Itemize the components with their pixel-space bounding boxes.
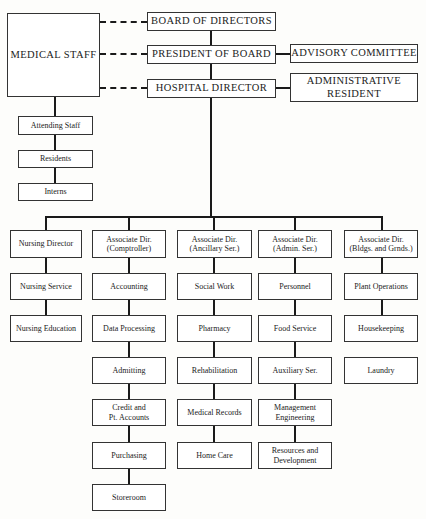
connector-residents-interns bbox=[54, 168, 56, 183]
connector-attending-residents bbox=[54, 135, 56, 150]
medical-records-box: Medical Records bbox=[177, 399, 252, 426]
pharmacy-box: Pharmacy bbox=[177, 315, 252, 342]
bus-drop-col3 bbox=[213, 216, 215, 230]
connector-board-president bbox=[210, 31, 212, 45]
admitting-box: Admitting bbox=[92, 357, 166, 384]
col2-connector bbox=[128, 258, 130, 273]
nursing-service-box: Nursing Service bbox=[10, 273, 82, 300]
dashed-connector-president bbox=[100, 53, 147, 55]
dashed-connector-director bbox=[100, 87, 147, 89]
col2-connector bbox=[128, 342, 130, 357]
col3-connector bbox=[213, 342, 215, 357]
col3-connector bbox=[213, 258, 215, 273]
management-engineering-box: Management Engineering bbox=[258, 399, 332, 426]
purchasing-box: Purchasing bbox=[92, 442, 166, 469]
credit-pt-accounts-box: Credit and Pt. Accounts bbox=[92, 399, 166, 426]
medical-staff-box: MEDICAL STAFF bbox=[7, 13, 100, 97]
housekeeping-box: Housekeeping bbox=[344, 315, 418, 342]
interns-box: Interns bbox=[18, 183, 93, 201]
col2-connector bbox=[128, 384, 130, 399]
connector-president-advisory bbox=[276, 53, 290, 55]
data-processing-box: Data Processing bbox=[92, 315, 166, 342]
social-work-box: Social Work bbox=[177, 273, 252, 300]
col1-connector bbox=[45, 300, 47, 315]
advisory-committee-box: ADVISORY COMMITTEE bbox=[290, 44, 418, 63]
col2-connector bbox=[128, 426, 130, 442]
connector-director-admin-resident bbox=[276, 87, 290, 89]
col1-connector bbox=[45, 258, 47, 273]
nursing-director-box: Nursing Director bbox=[10, 230, 82, 258]
connector-medical-attending bbox=[54, 97, 56, 116]
rehabilitation-box: Rehabilitation bbox=[177, 357, 252, 384]
laundry-box: Laundry bbox=[344, 357, 418, 384]
col4-connector bbox=[294, 258, 296, 273]
home-care-box: Home Care bbox=[177, 442, 252, 469]
col2-connector bbox=[128, 469, 130, 484]
col5-connector bbox=[381, 300, 383, 315]
board-of-directors-box: BOARD OF DIRECTORS bbox=[147, 12, 276, 31]
col4-connector bbox=[294, 342, 296, 357]
col4-connector bbox=[294, 300, 296, 315]
bus-drop-col2 bbox=[128, 216, 130, 230]
personnel-box: Personnel bbox=[258, 273, 332, 300]
auxiliary-ser-box: Auxiliary Ser. bbox=[258, 357, 332, 384]
residents-box: Residents bbox=[18, 150, 93, 168]
bus-drop-col5 bbox=[381, 216, 383, 230]
plant-operations-box: Plant Operations bbox=[344, 273, 418, 300]
administrative-resident-box: ADMINISTRATIVE RESIDENT bbox=[290, 73, 418, 102]
col3-connector bbox=[213, 300, 215, 315]
attending-staff-box: Attending Staff bbox=[18, 116, 93, 135]
col4-connector bbox=[294, 426, 296, 442]
col5-connector bbox=[381, 258, 383, 273]
food-service-box: Food Service bbox=[258, 315, 332, 342]
connector-president-director bbox=[210, 64, 212, 79]
col3-connector bbox=[213, 384, 215, 399]
assoc-dir-buildings-box: Associate Dir. (Bldgs. and Grnds.) bbox=[344, 230, 418, 258]
bus-drop-col1 bbox=[45, 216, 47, 230]
assoc-dir-ancillary-box: Associate Dir. (Ancillary Ser.) bbox=[177, 230, 252, 258]
bus-drop-col4 bbox=[294, 216, 296, 230]
resources-development-box: Resources and Development bbox=[258, 442, 332, 469]
president-of-board-box: PRESIDENT OF BOARD bbox=[147, 45, 276, 64]
col3-connector bbox=[213, 426, 215, 442]
col2-connector bbox=[128, 300, 130, 315]
storeroom-box: Storeroom bbox=[92, 484, 166, 511]
assoc-dir-comptroller-box: Associate Dir. (Comptroller) bbox=[92, 230, 166, 258]
accounting-box: Accounting bbox=[92, 273, 166, 300]
org-chart: MEDICAL STAFF BOARD OF DIRECTORS PRESIDE… bbox=[0, 0, 426, 519]
nursing-education-box: Nursing Education bbox=[10, 315, 82, 342]
hospital-director-box: HOSPITAL DIRECTOR bbox=[147, 79, 276, 98]
assoc-dir-admin-box: Associate Dir. (Admin. Ser.) bbox=[258, 230, 332, 258]
dashed-connector-board bbox=[100, 21, 147, 23]
col4-connector bbox=[294, 384, 296, 399]
connector-director-bus bbox=[210, 98, 212, 217]
